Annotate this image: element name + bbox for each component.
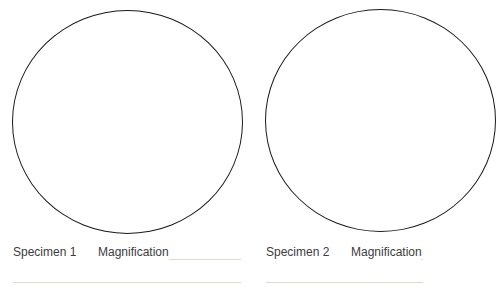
specimen-1-label: Specimen 1 [13,245,76,259]
specimen-1-notes-line[interactable] [13,282,241,283]
specimen-1-magnification-field[interactable] [169,259,241,260]
specimen-1-drawing-circle[interactable] [12,10,243,234]
specimen-1-magnification-label: Magnification [98,245,169,259]
specimen-2-label: Specimen 2 [266,245,329,259]
specimen-2-magnification-field[interactable] [421,259,423,260]
specimen-2-notes-line[interactable] [266,282,423,283]
specimen-2-drawing-circle[interactable] [265,9,496,232]
specimen-2-magnification-label: Magnification [351,245,422,259]
